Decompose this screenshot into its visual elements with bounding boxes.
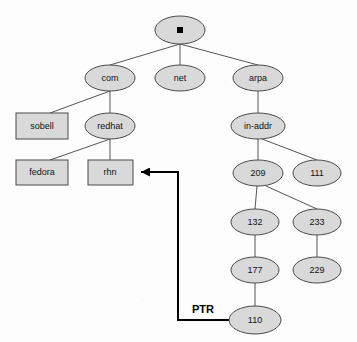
node-132[interactable]: 132 xyxy=(231,209,279,235)
node-com-label: com xyxy=(101,73,118,83)
node-233-label: 233 xyxy=(309,217,324,227)
node-root[interactable] xyxy=(155,16,205,44)
ptr-connector xyxy=(141,172,229,320)
node-fedora-label: fedora xyxy=(29,167,55,177)
node-rhn[interactable]: rhn xyxy=(88,160,133,185)
node-net[interactable]: net xyxy=(155,65,205,91)
node-redhat-label: redhat xyxy=(97,121,123,131)
node-177[interactable]: 177 xyxy=(231,257,279,283)
node-redhat[interactable]: redhat xyxy=(85,113,135,139)
node-com[interactable]: com xyxy=(85,65,135,91)
ptr-connector-path xyxy=(141,172,229,320)
node-209-label: 209 xyxy=(250,168,265,178)
node-sobell[interactable]: sobell xyxy=(16,113,68,139)
edge-redhat-fedora xyxy=(50,139,110,160)
edge-inaddr-111 xyxy=(262,139,317,160)
edge-209-233 xyxy=(266,186,317,209)
edge-root-arpa xyxy=(180,44,258,65)
node-132-label: 132 xyxy=(247,217,262,227)
node-233[interactable]: 233 xyxy=(293,209,341,235)
diagram-canvas: com net arpa sobell redhat in-addr xyxy=(0,0,357,342)
node-111[interactable]: 111 xyxy=(293,160,341,186)
node-177-label: 177 xyxy=(247,265,262,275)
node-in-addr[interactable]: in-addr xyxy=(231,113,285,139)
edge-com-sobell xyxy=(50,91,110,113)
node-209[interactable]: 209 xyxy=(233,160,283,186)
node-229-label: 229 xyxy=(309,265,324,275)
node-arpa-label: arpa xyxy=(249,73,267,83)
node-110[interactable]: 110 xyxy=(229,306,281,334)
node-arpa[interactable]: arpa xyxy=(233,65,283,91)
node-fedora[interactable]: fedora xyxy=(16,160,68,185)
node-sobell-label: sobell xyxy=(30,121,54,131)
node-rhn-label: rhn xyxy=(103,167,116,177)
node-in-addr-label: in-addr xyxy=(244,121,272,131)
edge-root-com xyxy=(110,44,180,65)
edge-209-132 xyxy=(255,186,257,209)
node-111-label: 111 xyxy=(310,168,324,178)
node-110-label: 110 xyxy=(248,315,262,325)
node-229[interactable]: 229 xyxy=(293,257,341,283)
node-net-label: net xyxy=(174,73,187,83)
dns-hierarchy-diagram: com net arpa sobell redhat in-addr xyxy=(0,0,357,342)
root-dot-icon xyxy=(177,27,183,33)
ptr-record-label: PTR xyxy=(192,303,214,315)
